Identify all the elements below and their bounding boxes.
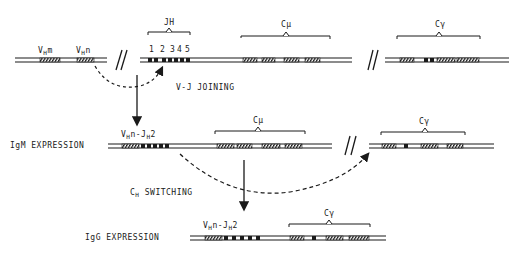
igg-c-gamma-bracket	[289, 224, 370, 227]
igg-dna	[190, 236, 386, 240]
germline-dna-left	[15, 58, 107, 62]
germline-dna-middle	[140, 58, 352, 62]
igg-vhn-jh2-label: VHn-JH2	[203, 222, 238, 231]
igm-c-gamma-label: Cγ	[419, 118, 430, 126]
jh-number-2: 2	[160, 46, 165, 54]
igm-c-mu-label: Cμ	[253, 117, 264, 125]
igm-c-mu-bracket	[215, 131, 305, 134]
jh-number-5: 5	[185, 46, 190, 54]
igm-vhn-jh2-label: VHn-JH2	[121, 131, 156, 140]
vhm-label: VHm	[38, 47, 53, 56]
germline-dna-right	[385, 58, 509, 62]
igm-dna-left	[108, 144, 332, 148]
break-mark-1	[116, 50, 127, 70]
diagram-canvas	[0, 0, 519, 255]
break-mark-2	[368, 50, 378, 70]
jh-segments	[148, 58, 190, 62]
jh-label: JH	[164, 19, 175, 27]
jh-number-3: 3	[170, 46, 175, 54]
ch-switching-arrow	[180, 154, 368, 193]
break-mark-3	[345, 136, 356, 155]
igg-expression-label: IgG EXPRESSION	[85, 234, 159, 242]
c-gamma-label: Cγ	[435, 21, 446, 29]
vhm-segment	[40, 58, 60, 62]
jh-number-1: 1	[149, 46, 154, 54]
vj-joining-label: V-J JOINING	[176, 84, 234, 92]
igm-dna-right	[369, 144, 494, 148]
c-mu-label: Cμ	[281, 21, 292, 29]
c-mu-bracket	[241, 36, 330, 39]
c-gamma-bracket	[397, 36, 480, 39]
igm-expression-label: IgM EXPRESSION	[10, 142, 84, 150]
igg-c-gamma-label: Cγ	[324, 210, 335, 218]
vhn-segment	[77, 58, 94, 62]
vhn-label: VHn	[76, 47, 91, 56]
igm-c-gamma-bracket	[381, 132, 465, 135]
ch-switching-label: CH SWITCHING	[130, 189, 193, 198]
jh-number-4: 4	[177, 46, 182, 54]
vj-joining-arrow	[95, 66, 162, 87]
